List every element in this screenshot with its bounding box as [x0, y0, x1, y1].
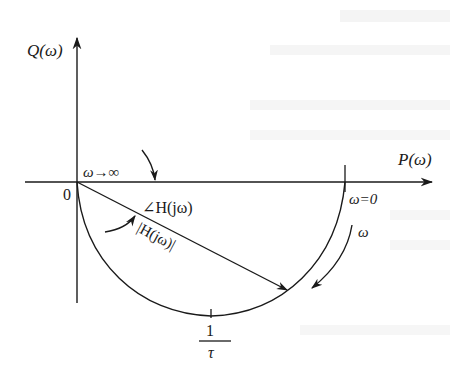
- x-axis-label: P(ω): [397, 150, 432, 169]
- y-axis-label: Q(ω): [27, 41, 63, 60]
- magnitude-label: |H(jω)|: [134, 220, 178, 254]
- omega-zero-label: ω=0: [349, 191, 378, 207]
- omega-infinity-label: ω→∞: [83, 164, 120, 180]
- polar-plot-diagram: Q(ω) P(ω) 0 ω→∞ ω=0 ω ∠H(jω) |H(jω)| 1 τ: [0, 0, 456, 381]
- corner-frequency-numerator: 1: [206, 322, 214, 339]
- angle-pointer-arrow: [105, 216, 135, 232]
- omega-direction-label: ω: [358, 224, 369, 240]
- phase-angle-label: ∠H(jω): [142, 199, 193, 217]
- origin-label: 0: [63, 186, 71, 203]
- corner-frequency-denominator: τ: [208, 344, 215, 361]
- omega-infinity-arrow: [142, 150, 155, 180]
